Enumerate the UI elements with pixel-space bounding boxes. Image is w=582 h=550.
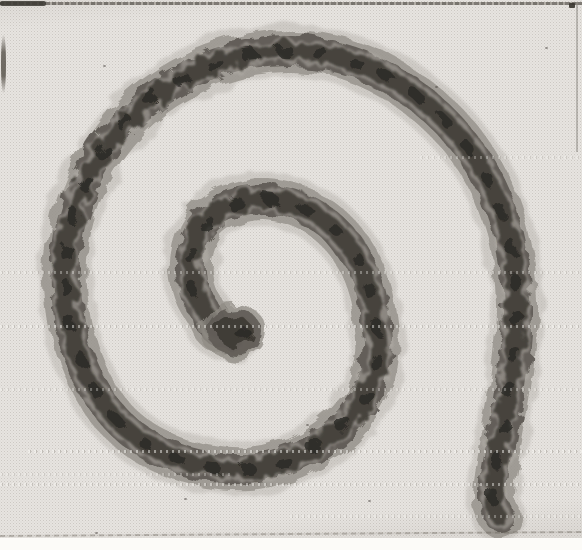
spiral-rope-figure — [0, 0, 582, 538]
halftone-plate — [0, 0, 582, 538]
plate-right-edge-line — [576, 2, 578, 152]
print-band-artifact — [0, 473, 230, 476]
print-speck — [184, 498, 187, 500]
print-speck — [545, 47, 548, 49]
print-speck — [103, 65, 106, 67]
print-band-artifact — [0, 271, 582, 274]
print-band-artifact — [290, 515, 582, 518]
plate-top-edge-line — [0, 2, 582, 5]
plate-left-edge-smudge — [1, 34, 6, 94]
print-band-artifact — [28, 450, 582, 453]
print-band-artifact — [0, 388, 582, 391]
page-background — [0, 0, 582, 550]
rope-inner-knob — [200, 303, 266, 359]
print-speck — [368, 500, 371, 502]
inner-knob-layer-3 — [235, 327, 251, 339]
print-speck — [435, 86, 438, 88]
print-speck — [306, 424, 309, 426]
plate-top-edge-dark-segment — [0, 1, 46, 6]
plate-corner-mark — [569, 3, 575, 8]
print-band-artifact — [0, 325, 582, 328]
rope-strokes — [66, 51, 517, 517]
print-band-artifact — [0, 483, 582, 486]
print-band-artifact — [420, 156, 582, 159]
